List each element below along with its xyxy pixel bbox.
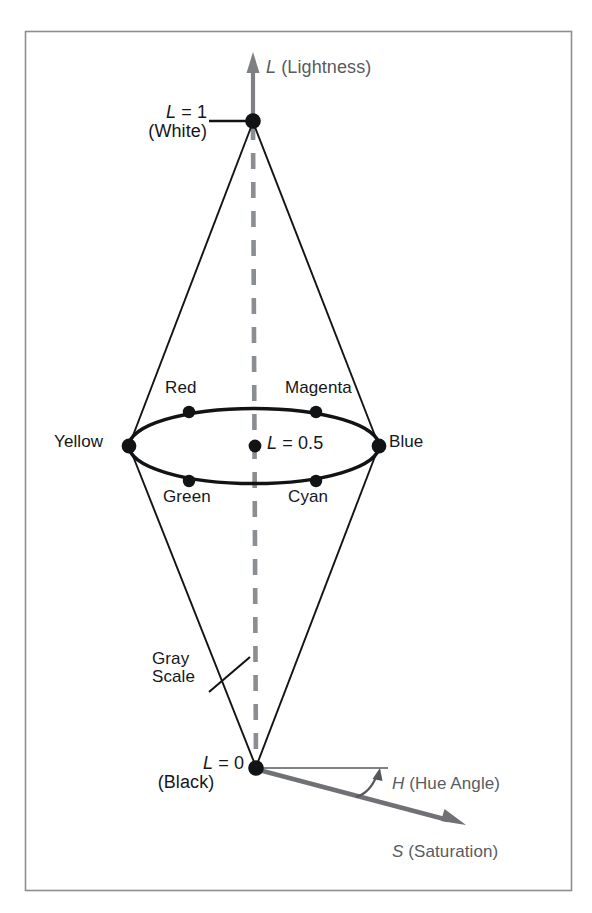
dot-red bbox=[183, 406, 195, 418]
dot-blue bbox=[372, 439, 387, 454]
hls-color-model-figure: L (Lightness) L = 1 (White) Red Magenta … bbox=[0, 0, 592, 913]
vertex-label-black-line1: L = 0 bbox=[128, 754, 244, 773]
axis-label-hue-symbol: H bbox=[392, 774, 404, 793]
vertex-label-black-line2: (Black) bbox=[128, 773, 244, 792]
axis-label-hue: H (Hue Angle) bbox=[392, 775, 500, 793]
dot-magenta bbox=[310, 406, 322, 418]
gray-scale-label: Gray Scale bbox=[152, 650, 195, 687]
dot-white-vertex bbox=[245, 113, 261, 129]
vertex-label-black: L = 0 (Black) bbox=[128, 754, 244, 793]
dot-cyan bbox=[310, 475, 322, 487]
mid-lightness-text: = 0.5 bbox=[277, 433, 323, 453]
axis-label-saturation: S (Saturation) bbox=[392, 843, 498, 861]
figure-frame bbox=[26, 32, 572, 891]
gray-scale-label-line1: Gray bbox=[152, 650, 195, 668]
hue-label-yellow: Yellow bbox=[54, 433, 103, 451]
dot-mid-lightness bbox=[249, 440, 262, 453]
axis-label-saturation-symbol: S bbox=[392, 842, 403, 861]
hue-label-cyan: Cyan bbox=[288, 488, 328, 506]
axis-label-lightness: L (Lightness) bbox=[266, 58, 371, 77]
mid-lightness-label: L = 0.5 bbox=[267, 434, 323, 453]
dot-black-vertex bbox=[248, 760, 264, 776]
hue-label-red: Red bbox=[165, 379, 197, 397]
hue-label-blue: Blue bbox=[389, 433, 423, 451]
vertex-label-white-line2: (White) bbox=[145, 122, 207, 141]
axis-label-hue-text: (Hue Angle) bbox=[404, 774, 500, 793]
dot-green bbox=[183, 475, 195, 487]
hue-label-green: Green bbox=[163, 488, 211, 506]
figure-canvas bbox=[0, 0, 592, 913]
axis-label-saturation-text: (Saturation) bbox=[403, 842, 498, 861]
axis-label-lightness-symbol: L bbox=[266, 57, 276, 77]
vertex-label-white-line1: L = 1 bbox=[145, 103, 207, 122]
mid-lightness-symbol: L bbox=[267, 433, 277, 453]
axis-label-lightness-text: (Lightness) bbox=[276, 57, 371, 77]
vertex-label-white: L = 1 (White) bbox=[145, 103, 207, 142]
dot-yellow bbox=[122, 439, 137, 454]
gray-scale-label-line2: Scale bbox=[152, 668, 195, 686]
hue-label-magenta: Magenta bbox=[285, 379, 352, 397]
